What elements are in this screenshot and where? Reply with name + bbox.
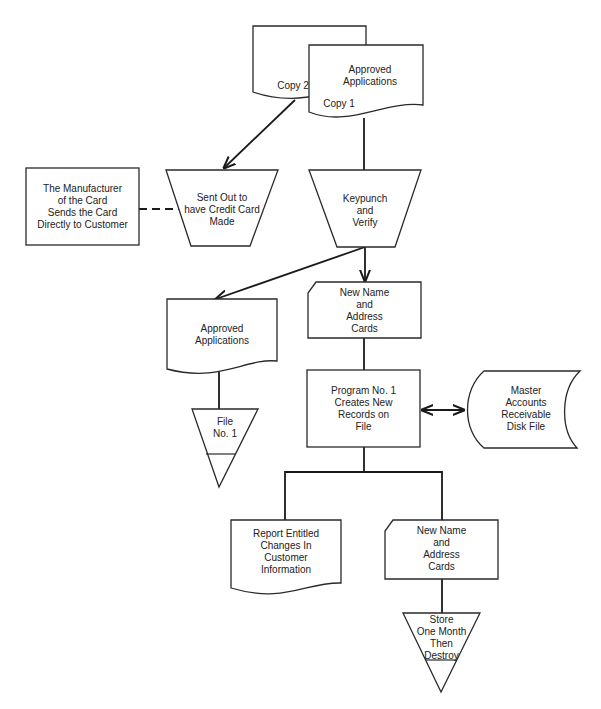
sent-out-label: Sent Out to have Credit Card Made [166, 192, 278, 228]
approved-applications-label: Approved Applications [167, 323, 277, 347]
new-cards-1-label: New Name and Address Cards [308, 287, 421, 335]
edge-copy2-to-sentout [224, 100, 295, 168]
program-label: Program No. 1 Creates New Records on Fil… [307, 385, 420, 433]
disk-file-label: Master Accounts Receivable Disk File [476, 385, 576, 433]
store-label: Store One Month Then Destroy [403, 614, 480, 662]
file-no1-label: File No. 1 [192, 416, 258, 440]
new-cards-2-label: New Name and Address Cards [385, 525, 498, 573]
manufacturer-label: The Manufacturer of the Card Sends the C… [26, 183, 139, 231]
copy1-label: Copy 1 [314, 98, 364, 110]
edge-branch [285, 472, 442, 520]
copy1-title: Approved Applications [320, 64, 420, 88]
keypunch-label: Keypunch and Verify [309, 193, 421, 229]
report-label: Report Entitled Changes In Customer Info… [231, 528, 341, 576]
copy2-label: Copy 2 [263, 80, 323, 92]
flowchart-canvas [0, 0, 601, 709]
